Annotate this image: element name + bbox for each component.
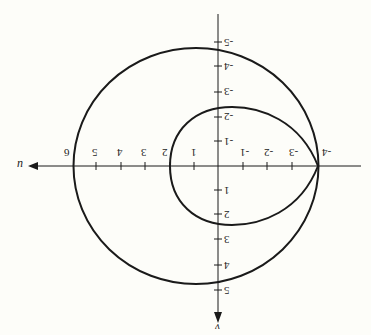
uv-plane-diagram bbox=[0, 0, 371, 335]
v-axis-label: v bbox=[215, 322, 220, 333]
u-tick-label: 4 bbox=[117, 147, 123, 158]
u-tick-label: 1 bbox=[191, 147, 197, 158]
v-tick-label: -3 bbox=[224, 86, 233, 97]
v-tick-label: -5 bbox=[224, 37, 233, 48]
v-tick-label: -2 bbox=[224, 111, 233, 122]
u-tick-label: -3 bbox=[289, 147, 298, 158]
u-tick-label: 2 bbox=[162, 147, 168, 158]
u-tick-label: -2 bbox=[264, 147, 273, 158]
v-tick-label: 4 bbox=[224, 260, 230, 271]
v-tick-label: 2 bbox=[224, 209, 230, 220]
v-tick-label: 3 bbox=[224, 234, 230, 245]
v-tick-label: 5 bbox=[224, 285, 230, 296]
u-axis-label: u bbox=[17, 159, 23, 171]
u-tick-label: 6 bbox=[64, 147, 70, 158]
u-tick-label: -4 bbox=[322, 147, 331, 158]
v-tick-label: -1 bbox=[224, 136, 233, 147]
v-tick-label: 1 bbox=[224, 185, 230, 196]
u-axis-arrow-icon bbox=[28, 162, 38, 170]
u-tick-label: 3 bbox=[141, 147, 147, 158]
u-tick-label: 5 bbox=[92, 147, 98, 158]
u-tick-label: -1 bbox=[240, 147, 249, 158]
v-tick-label: -4 bbox=[224, 61, 233, 72]
